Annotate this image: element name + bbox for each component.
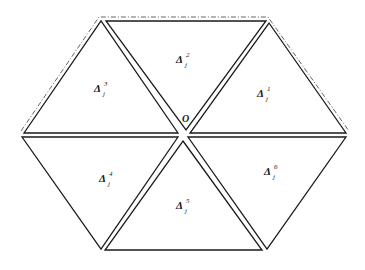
svg-text:j: j xyxy=(107,180,110,188)
svg-text:Δ: Δ xyxy=(263,165,271,177)
svg-text:4: 4 xyxy=(109,170,113,178)
svg-text:j: j xyxy=(102,90,105,98)
svg-text:Δ: Δ xyxy=(175,199,183,211)
svg-text:Δ: Δ xyxy=(93,82,101,94)
svg-text:6: 6 xyxy=(274,163,278,171)
svg-text:Δ: Δ xyxy=(175,53,183,65)
svg-text:2: 2 xyxy=(186,51,190,59)
svg-text:3: 3 xyxy=(103,80,108,88)
svg-text:j: j xyxy=(272,173,275,181)
svg-text:5: 5 xyxy=(186,197,190,205)
svg-text:Δ: Δ xyxy=(98,172,106,184)
svg-text:j: j xyxy=(184,61,187,69)
origin-label: O xyxy=(182,113,189,124)
svg-text:1: 1 xyxy=(267,85,271,93)
hexagon-diagram: Δ 3 j Δ 2 j Δ 1 j Δ 4 j Δ 5 j Δ 6 j O xyxy=(0,0,365,270)
svg-text:j: j xyxy=(265,95,268,103)
svg-text:Δ: Δ xyxy=(256,87,264,99)
svg-text:j: j xyxy=(184,207,187,215)
